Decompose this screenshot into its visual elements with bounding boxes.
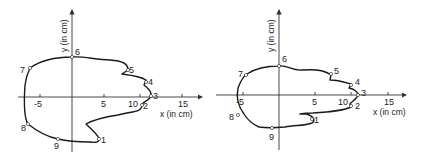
x-axis-label: x (in cm): [160, 109, 193, 119]
point-label-9: 9: [54, 141, 59, 151]
tick-label: 5: [312, 97, 317, 107]
right-panel: -5 5 10 15 x (in cm) y (in cm) 1 2 3 4 5…: [216, 10, 406, 150]
point-label-5: 5: [129, 65, 134, 75]
point-label-1: 1: [314, 115, 319, 125]
point-label-2: 2: [143, 101, 148, 111]
point-label-4: 4: [148, 77, 153, 87]
point-label-1: 1: [101, 135, 106, 145]
point-label-5: 5: [334, 66, 339, 76]
point-label-7: 7: [20, 65, 25, 75]
tick-label: 10: [338, 97, 348, 107]
point-label-7: 7: [238, 69, 243, 79]
point-label-3: 3: [153, 91, 158, 101]
point-label-8: 8: [21, 123, 26, 133]
point-label-6: 6: [75, 47, 80, 57]
tick-label: 15: [384, 97, 394, 107]
x-axis-label: x (in cm): [373, 107, 406, 117]
figure: -5 5 10 15 x (in cm) y (in cm) 1 2 3 4 5…: [0, 0, 426, 159]
point-label-9: 9: [269, 132, 274, 142]
y-axis-label: y (in cm): [266, 19, 276, 52]
point-label-2: 2: [355, 101, 360, 111]
y-axis-label: y (in cm): [59, 19, 69, 52]
point-label-4: 4: [355, 77, 360, 87]
tick-label: 15: [178, 99, 188, 109]
tick-label: -5: [34, 99, 42, 109]
tick-label: 10: [128, 99, 138, 109]
point-label-6: 6: [282, 54, 287, 64]
tick-label: 5: [101, 99, 106, 109]
left-panel: -5 5 10 15 x (in cm) y (in cm) 1 2 3 4 5…: [18, 10, 202, 152]
point-label-3: 3: [361, 88, 366, 98]
point-label-8: 8: [229, 112, 234, 122]
